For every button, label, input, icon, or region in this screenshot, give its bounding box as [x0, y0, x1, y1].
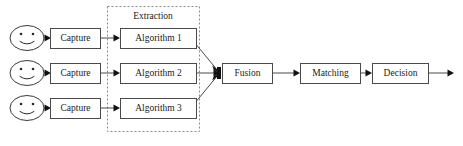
arrowhead-capture3-to-algorithm3 [114, 105, 121, 112]
extraction-group-label: Extraction [133, 11, 173, 21]
fusion-box-label: Fusion [235, 68, 261, 78]
pipeline-row-3: Capture Algorithm 3 [10, 96, 197, 121]
arrowhead-capture2-to-algorithm2 [114, 70, 121, 77]
face-icon-3-left-eye [20, 103, 23, 106]
arrowhead-output [448, 70, 455, 77]
arrowhead-matching-to-decision [366, 70, 373, 77]
face-icon-1 [10, 26, 44, 51]
capture-box-3-label: Capture [60, 103, 90, 113]
face-icon-3 [10, 96, 44, 121]
algorithm-box-2-label: Algorithm 2 [135, 68, 182, 78]
capture-box-1-label: Capture [60, 33, 90, 43]
face-icon-1-left-eye [20, 33, 23, 36]
face-icon-2 [10, 61, 44, 86]
pipeline-row-2: Capture Algorithm 2 [10, 61, 197, 86]
matching-box-label: Matching [312, 68, 349, 78]
arrowhead-fusion-to-matching [294, 70, 301, 77]
decision-box-label: Decision [384, 68, 418, 78]
fusion-junction-marker [217, 67, 221, 79]
edge-algorithm3-to-fusion [197, 78, 217, 102]
edge-algorithm1-to-fusion [197, 45, 217, 69]
pipeline-row-1: Capture Algorithm 1 [10, 26, 197, 51]
flow-diagram: Extraction Capture Algorithm 1 [0, 0, 463, 146]
face-icon-2-left-eye [20, 68, 23, 71]
fusion-convergence-edges [197, 45, 222, 101]
face-icon-1-right-eye [32, 33, 35, 36]
algorithm-box-3-label: Algorithm 3 [135, 103, 182, 113]
algorithm-box-1-label: Algorithm 1 [135, 33, 182, 43]
capture-box-2-label: Capture [60, 68, 90, 78]
face-icon-2-right-eye [32, 68, 35, 71]
face-icon-3-right-eye [32, 103, 35, 106]
diagram-canvas: Extraction Capture Algorithm 1 [0, 0, 463, 146]
arrowhead-capture1-to-algorithm1 [114, 35, 121, 42]
